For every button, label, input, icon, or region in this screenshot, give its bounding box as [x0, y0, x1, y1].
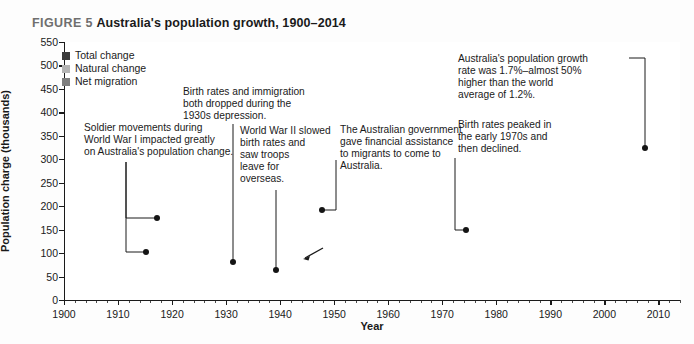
annotation-baby-boom: Post-war baby boom: [322, 245, 372, 270]
legend-swatch-natural-change: [62, 65, 70, 73]
callout-dot-ww1-a: [154, 215, 160, 221]
callout-dot-birth-peak: [463, 227, 469, 233]
annotation-growth-rate-line-2: higher than the world: [458, 77, 588, 89]
callout-dot-ww1-b: [143, 249, 149, 255]
x-tick-label: 1910: [96, 308, 140, 320]
y-tick-label: 450: [12, 83, 58, 95]
annotation-birth-peak-line-2: then declined.: [458, 143, 551, 155]
y-tick-label: 250: [12, 177, 58, 189]
annotation-ww1-line-2: on Australia's population change.: [84, 146, 233, 158]
callout-dot-growth-rate: [642, 145, 648, 151]
annotation-migration-assistance-line-2: to migrants to come to: [340, 148, 462, 160]
y-tick-label: 500: [12, 59, 58, 71]
annotation-ww1-line-1: World War I impacted greatly: [84, 134, 233, 146]
page-title: Australia's population growth, 1900–2014: [96, 16, 345, 30]
x-tick-label: 2000: [582, 308, 626, 320]
y-axis-label: Population charge (thousands): [0, 42, 12, 300]
figure-container: FIGURE 5 Australia's population growth, …: [0, 0, 694, 344]
annotation-ww2-line-3: leave for: [240, 161, 331, 173]
y-tick-label: 0: [12, 294, 58, 306]
x-tick-label: 2010: [636, 308, 680, 320]
x-axis-line: [64, 300, 680, 301]
y-tick-label: 300: [12, 153, 58, 165]
figure-label: FIGURE 5: [32, 16, 93, 30]
x-tick-label: 1930: [204, 308, 248, 320]
annotation-birth-peak-line-0: Birth rates peaked in: [458, 119, 551, 131]
annotation-growth-rate-line-3: average of 1.2%.: [458, 89, 588, 101]
x-tick-label: 1980: [474, 308, 518, 320]
annotation-ww2-line-1: birth rates and: [240, 137, 331, 149]
y-tick-label: 100: [12, 247, 58, 259]
y-tick-label: 150: [12, 224, 58, 236]
annotation-depression-line-0: Birth rates and immigration: [183, 86, 305, 98]
y-tick-label: 200: [12, 200, 58, 212]
callout-dot-ww2: [273, 267, 279, 273]
figure-header: FIGURE 5 Australia's population growth, …: [32, 16, 346, 30]
annotation-depression-line-1: both dropped during the: [183, 98, 305, 110]
annotation-ww1: Soldier movements during World War I imp…: [84, 122, 233, 158]
chart-legend: Total change Natural change Net migratio…: [62, 50, 146, 89]
y-tick-label: 350: [12, 130, 58, 142]
legend-label-net-migration: Net migration: [75, 76, 137, 88]
annotation-growth-rate: Australia's population growth rate was 1…: [458, 53, 588, 101]
annotation-migration-assistance-line-0: The Australian government: [340, 124, 462, 136]
x-tick-label: 1960: [366, 308, 410, 320]
legend-item-net-migration: Net migration: [62, 76, 146, 88]
legend-item-natural-change: Natural change: [62, 63, 146, 75]
x-tick-label: 1900: [42, 308, 86, 320]
legend-swatch-total-change: [62, 52, 70, 60]
baby-boom-arrow-icon: [302, 247, 324, 261]
legend-swatch-net-migration: [62, 78, 70, 86]
y-tick-label: 50: [12, 271, 58, 283]
annotation-ww2-line-4: overseas.: [240, 173, 331, 185]
annotation-growth-rate-line-0: Australia's population growth: [458, 53, 588, 65]
x-axis-label: Year: [64, 320, 680, 332]
legend-label-total-change: Total change: [75, 50, 135, 62]
x-tick-label: 1940: [258, 308, 302, 320]
annotation-baby-boom-line-0: Post-war: [322, 245, 372, 257]
annotation-depression-line-2: 1930s depression.: [183, 110, 305, 122]
annotation-birth-peak-line-1: the early 1970s and: [458, 131, 551, 143]
annotation-ww2-line-2: saw troops: [240, 149, 331, 161]
annotation-growth-rate-line-1: rate was 1.7%–almost 50%: [458, 65, 588, 77]
y-tick-label: 550: [12, 36, 58, 48]
annotation-birth-peak: Birth rates peaked in the early 1970s an…: [458, 119, 551, 155]
callout-dot-depression: [230, 259, 236, 265]
annotation-migration-assistance-line-3: Australia.: [340, 160, 462, 172]
x-tick-minor: [680, 300, 681, 303]
annotation-depression: Birth rates and immigration both dropped…: [183, 86, 305, 122]
legend-label-natural-change: Natural change: [75, 63, 146, 75]
annotation-ww1-line-0: Soldier movements during: [84, 122, 233, 134]
annotation-migration-assistance-line-1: gave financial assistance: [340, 136, 462, 148]
annotation-baby-boom-line-1: baby boom: [322, 257, 372, 269]
x-tick-label: 1920: [150, 308, 194, 320]
x-tick-label: 1990: [528, 308, 572, 320]
annotation-ww2-line-0: World War II slowed: [240, 125, 331, 137]
annotation-ww2: World War II slowed birth rates and saw …: [240, 125, 331, 185]
callout-dot-migration-assistance: [319, 207, 325, 213]
legend-item-total-change: Total change: [62, 50, 146, 62]
annotation-migration-assistance: The Australian government gave financial…: [340, 124, 462, 172]
x-tick-label: 1970: [420, 308, 464, 320]
y-tick-label: 400: [12, 106, 58, 118]
x-tick-label: 1950: [312, 308, 356, 320]
